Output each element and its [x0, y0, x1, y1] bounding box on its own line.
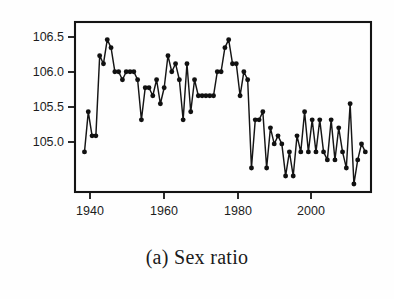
data-point [93, 133, 98, 138]
y-tick-label-105-5: 105.5 [33, 100, 64, 114]
data-point [355, 157, 360, 162]
data-point [363, 149, 368, 154]
y-tick-label-106-5: 106.5 [33, 30, 64, 44]
data-point [162, 85, 167, 90]
data-point [306, 149, 311, 154]
data-point [298, 149, 303, 154]
data-point [279, 141, 284, 146]
data-point [116, 69, 121, 74]
x-axis-tick-labels: 1940 1960 1980 2000 [76, 204, 325, 218]
data-point [348, 101, 353, 106]
data-point [283, 174, 288, 179]
data-point [276, 133, 281, 138]
data-point [86, 109, 91, 114]
data-point [173, 61, 178, 66]
data-point [234, 61, 239, 66]
data-point [97, 53, 102, 58]
data-point [260, 109, 265, 114]
data-point [82, 149, 87, 154]
data-point [351, 182, 356, 187]
data-point [325, 157, 330, 162]
figure-sex-ratio: 106.5 106.0 105.5 105.0 1940 1960 1 [0, 0, 394, 299]
data-point [109, 45, 114, 50]
data-point [131, 69, 136, 74]
data-point [135, 77, 140, 82]
data-point [181, 117, 186, 122]
data-point [166, 53, 171, 58]
data-point [321, 149, 326, 154]
data-point [287, 149, 292, 154]
x-tick-label-2000: 2000 [297, 204, 325, 218]
data-point [192, 77, 197, 82]
data-point [169, 69, 174, 74]
data-point [302, 109, 307, 114]
data-point [211, 93, 216, 98]
series-line-sex-ratio [84, 40, 365, 184]
data-point [120, 77, 125, 82]
data-point [264, 165, 269, 170]
data-point [268, 125, 273, 130]
data-point [295, 133, 300, 138]
data-point [336, 125, 341, 130]
data-point [329, 117, 334, 122]
data-point [314, 149, 319, 154]
figure-caption: (a) Sex ratio [0, 246, 394, 269]
data-point [188, 109, 193, 114]
data-point [177, 77, 182, 82]
data-point [344, 165, 349, 170]
y-tick-label-106-0: 106.0 [33, 65, 64, 79]
data-point [147, 85, 152, 90]
data-point [257, 117, 262, 122]
sex-ratio-line-chart: 106.5 106.0 105.5 105.0 1940 1960 1 [0, 0, 394, 232]
data-point [150, 93, 155, 98]
x-tick-label-1940: 1940 [76, 204, 104, 218]
chart-plot-area: 106.5 106.0 105.5 105.0 1940 1960 1 [0, 0, 394, 232]
data-point [222, 45, 227, 50]
y-tick-label-105-0: 105.0 [33, 135, 64, 149]
data-point [101, 61, 106, 66]
data-point [105, 37, 110, 42]
x-tick-label-1980: 1980 [224, 204, 252, 218]
data-point [340, 149, 345, 154]
data-point [238, 93, 243, 98]
y-axis-tick-labels: 106.5 106.0 105.5 105.0 [33, 30, 64, 149]
data-point [317, 117, 322, 122]
data-point [139, 117, 144, 122]
series-markers-sex-ratio [82, 37, 368, 186]
data-point [249, 165, 254, 170]
data-point [245, 77, 250, 82]
data-point [359, 141, 364, 146]
data-point [226, 37, 231, 42]
data-point [241, 69, 246, 74]
x-tick-label-1960: 1960 [150, 204, 178, 218]
data-point [185, 61, 190, 66]
data-point [154, 77, 159, 82]
data-point [291, 174, 296, 179]
data-point [158, 101, 163, 106]
data-point [272, 141, 277, 146]
data-point [333, 157, 338, 162]
data-point [310, 117, 315, 122]
data-point [219, 69, 224, 74]
